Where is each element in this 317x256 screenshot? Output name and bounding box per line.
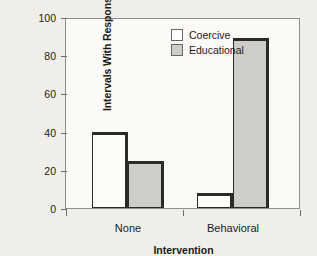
y-tick-mark (61, 94, 67, 95)
legend-item-educational: Educational (171, 42, 267, 57)
legend-item-coercive: Coercive (171, 27, 267, 42)
y-tick-label: 20 (44, 165, 56, 177)
y-axis-title: Intervals With Responses (%) (101, 0, 113, 129)
y-tick-label: 40 (44, 127, 56, 139)
bar-educational-none (128, 161, 164, 208)
plot-area: Intervals With Responses (%) 0 20 40 60 … (65, 18, 300, 209)
y-tick-mark (61, 56, 67, 57)
x-axis-title: Intervention (66, 244, 301, 256)
x-tick-mark-right (300, 210, 301, 216)
y-tick-label: 60 (44, 88, 56, 100)
x-tick-mark-left (66, 210, 67, 216)
y-tick-mark (61, 133, 67, 134)
x-tick-mark-mid (183, 210, 184, 216)
legend-label: Educational (189, 44, 244, 56)
legend-swatch-icon (171, 29, 183, 41)
y-tick-label: 80 (44, 50, 56, 62)
y-tick-mark (61, 171, 67, 172)
chart-figure: Intervals With Responses (%) 0 20 40 60 … (0, 0, 317, 256)
legend: Coercive Educational (171, 27, 267, 57)
bar-coercive-behavioral (197, 193, 233, 208)
x-group-label-behavioral: Behavioral (185, 222, 281, 234)
bar-educational-behavioral (233, 38, 269, 208)
y-tick-mark (61, 18, 67, 19)
x-group-label-none: None (80, 222, 176, 234)
legend-label: Coercive (189, 29, 230, 41)
legend-swatch-icon (171, 44, 183, 56)
y-tick-label: 100 (38, 12, 56, 24)
bar-coercive-none (92, 132, 128, 208)
y-tick-label: 0 (50, 203, 56, 215)
